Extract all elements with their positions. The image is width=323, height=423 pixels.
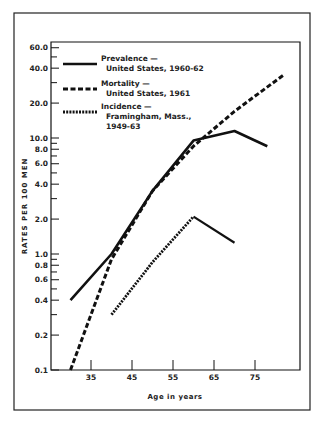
- legend-label: United States, 1961: [106, 89, 190, 98]
- y-tick-label: 0.4: [35, 296, 48, 305]
- legend-label: United States, 1960-62: [106, 64, 204, 73]
- legend-label: Framingham, Mass.,: [106, 112, 191, 121]
- x-axis-title: Age in years: [147, 393, 202, 401]
- y-tick-label: 1.0: [35, 250, 48, 259]
- legend-label: Incidence —: [101, 102, 152, 111]
- legend-label: Mortality —: [101, 79, 150, 88]
- y-tick-label: 4.0: [35, 180, 48, 189]
- legend-label: Prevalence —: [101, 54, 158, 63]
- y-tick-label: 60.0: [29, 43, 48, 52]
- y-tick-label: 20.0: [29, 99, 48, 108]
- y-tick-label: 40.0: [29, 64, 48, 73]
- chart: 0.10.20.40.60.81.02.04.06.08.010.020.040…: [0, 0, 323, 423]
- x-tick-label: 45: [127, 373, 137, 382]
- y-tick-label: 0.6: [35, 275, 48, 284]
- y-tick-label: 10.0: [29, 134, 48, 143]
- y-tick-label: 8.0: [35, 145, 48, 154]
- x-tick-label: 65: [209, 373, 219, 382]
- x-tick-label: 55: [168, 373, 178, 382]
- x-tick-label: 75: [250, 373, 260, 382]
- y-tick-label: 2.0: [35, 215, 48, 224]
- y-axis-title: RATES PER 100 MEN: [21, 158, 29, 255]
- y-tick-label: 0.1: [35, 366, 48, 375]
- legend-label: 1949-63: [106, 122, 140, 131]
- x-tick-label: 35: [86, 373, 96, 382]
- y-tick-label: 0.2: [35, 331, 48, 340]
- y-tick-label: 6.0: [35, 159, 48, 168]
- y-tick-label: 0.8: [35, 261, 48, 270]
